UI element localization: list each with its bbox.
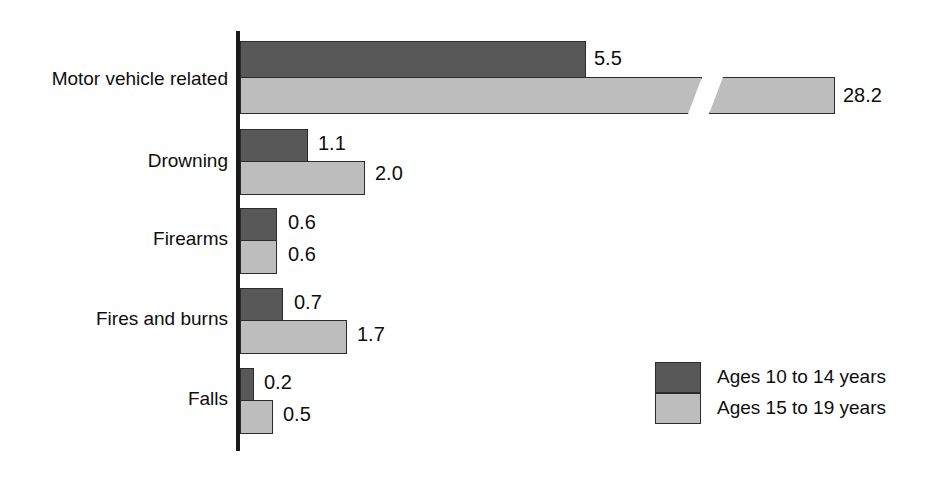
bar-firearms-ages-10-to-14 <box>240 208 277 241</box>
bar-motor-vehicle-related-ages-15-to-19-segment-right <box>709 77 835 114</box>
value-label-firearms-ages-15-to-19: 0.6 <box>288 244 316 264</box>
value-label-firearms-ages-10-to-14: 0.6 <box>288 212 316 232</box>
category-label-motor-vehicle-related: Motor vehicle related <box>52 69 228 88</box>
category-label-fires-and-burns: Fires and burns <box>96 309 228 328</box>
value-label-fires-and-burns-ages-15-to-19: 1.7 <box>357 324 385 344</box>
legend-label-ages-15-to-19: Ages 15 to 19 years <box>717 397 886 418</box>
value-label-fires-and-burns-ages-10-to-14: 0.7 <box>294 292 322 312</box>
bar-fires-and-burns-ages-15-to-19 <box>240 320 347 354</box>
bar-firearms-ages-15-to-19 <box>240 240 277 274</box>
bar-chart: Motor vehicle related Drowning Firearms … <box>0 0 931 477</box>
value-label-falls-ages-15-to-19: 0.5 <box>283 404 311 424</box>
value-label-motor-vehicle-related-ages-10-to-14: 5.5 <box>594 48 622 68</box>
value-label-motor-vehicle-related-ages-15-to-19: 28.2 <box>843 85 882 105</box>
bar-falls-ages-15-to-19 <box>240 400 273 434</box>
value-label-falls-ages-10-to-14: 0.2 <box>264 372 292 392</box>
legend-label-ages-10-to-14: Ages 10 to 14 years <box>717 366 886 387</box>
category-label-falls: Falls <box>188 389 228 408</box>
bar-drowning-ages-10-to-14 <box>240 129 308 162</box>
bar-falls-ages-10-to-14 <box>240 368 254 401</box>
legend-swatch-ages-15-to-19 <box>655 393 701 424</box>
bar-fires-and-burns-ages-10-to-14 <box>240 288 283 321</box>
category-label-drowning: Drowning <box>148 151 228 170</box>
bar-motor-vehicle-related-ages-10-to-14 <box>240 41 586 78</box>
bar-drowning-ages-15-to-19 <box>240 161 365 195</box>
value-label-drowning-ages-15-to-19: 2.0 <box>375 163 403 183</box>
legend-swatch-ages-10-to-14 <box>655 362 701 393</box>
bar-motor-vehicle-related-ages-15-to-19-segment-left <box>240 77 702 114</box>
value-label-drowning-ages-10-to-14: 1.1 <box>318 133 346 153</box>
category-label-firearms: Firearms <box>153 229 228 248</box>
